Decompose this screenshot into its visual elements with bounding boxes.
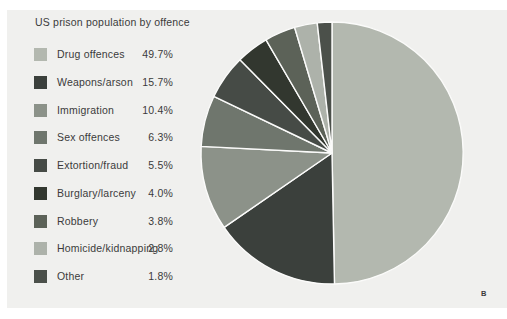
- figure-panel-letter: B: [481, 289, 487, 298]
- pie-chart: [0, 0, 507, 319]
- pie-slice-drug-offences: [332, 22, 463, 284]
